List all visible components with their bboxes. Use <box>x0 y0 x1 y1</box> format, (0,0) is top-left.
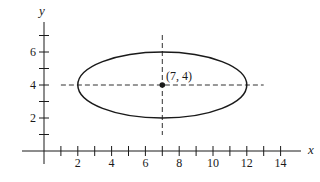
x-tick-label: 6 <box>142 156 148 170</box>
x-tick-label: 14 <box>275 156 287 170</box>
ellipse-chart: 2 4 6 8 10 12 14 2 4 6 x y (7, 4) <box>0 0 320 182</box>
x-tick-label: 4 <box>109 156 115 170</box>
y-tick-labels: 2 4 6 <box>30 45 36 125</box>
x-tick-label: 8 <box>176 156 182 170</box>
x-tick-labels: 2 4 6 8 10 12 14 <box>75 156 287 170</box>
center-point <box>160 82 166 88</box>
center-label: (7, 4) <box>166 69 192 83</box>
y-tick-label: 6 <box>30 45 36 59</box>
y-tick-label: 2 <box>30 111 36 125</box>
y-tick-label: 4 <box>30 78 36 92</box>
x-tick-label: 10 <box>207 156 219 170</box>
x-tick-label: 12 <box>241 156 253 170</box>
y-axis-label: y <box>37 3 45 18</box>
x-axis-label: x <box>307 142 314 157</box>
x-tick-label: 2 <box>75 156 81 170</box>
